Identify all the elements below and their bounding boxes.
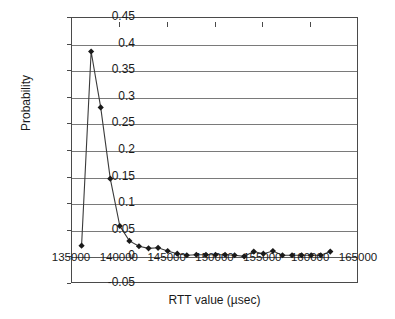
y-tick-mark xyxy=(67,283,71,284)
y-tick-label: 0.4 xyxy=(77,36,135,50)
y-tick-mark xyxy=(67,17,71,18)
data-point-marker xyxy=(98,104,104,110)
x-tick-mark xyxy=(167,22,168,27)
y-tick-label: 0.25 xyxy=(77,115,135,129)
y-tick-mark xyxy=(67,203,71,204)
x-tick-mark xyxy=(310,22,311,27)
x-tick-mark xyxy=(262,22,263,27)
data-point-marker xyxy=(126,238,132,244)
y-tick-mark xyxy=(67,70,71,71)
y-tick-label: 0.3 xyxy=(77,89,135,103)
data-point-marker xyxy=(155,245,161,251)
y-tick-label: 0.05 xyxy=(77,222,135,236)
x-tick-label: 165000 xyxy=(328,251,388,263)
chart-figure: Probability -0.0500.050.10.150.20.250.30… xyxy=(0,0,395,319)
x-tick-mark xyxy=(215,22,216,27)
y-tick-label: 0.35 xyxy=(77,62,135,76)
y-axis-title: Probability xyxy=(19,33,33,173)
y-tick-label: 0.45 xyxy=(77,9,135,23)
y-tick-label: -0.05 xyxy=(77,275,135,289)
y-tick-mark xyxy=(67,150,71,151)
y-tick-label: 0.1 xyxy=(77,195,135,209)
y-tick-mark xyxy=(67,123,71,124)
x-tick-mark xyxy=(119,22,120,27)
y-tick-mark xyxy=(67,44,71,45)
y-tick-mark xyxy=(67,230,71,231)
y-tick-mark xyxy=(67,177,71,178)
y-tick-mark xyxy=(67,97,71,98)
data-point-marker xyxy=(136,243,142,249)
y-tick-label: 0.2 xyxy=(77,142,135,156)
x-axis-title: RTT value (µsec) xyxy=(71,293,358,307)
y-tick-label: 0.15 xyxy=(77,169,135,183)
